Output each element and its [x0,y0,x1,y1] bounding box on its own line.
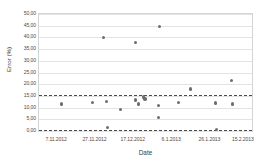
data-point [134,41,137,44]
x-axis-tick-label: 7.11.2012 [45,137,66,142]
gridline [39,61,252,62]
data-point [189,87,192,90]
gridline [39,119,252,120]
y-axis-tick-label: 50,00 [2,11,36,16]
x-axis-tick-label: 15.2.2013 [232,137,254,142]
data-point [105,100,108,103]
data-point [119,108,122,111]
x-axis-tick-label: 26.1.2013 [199,137,221,142]
gridline [39,108,252,109]
y-axis-tick-label: 15,00 [2,92,36,97]
gridline [39,84,252,85]
plot-area [38,13,253,132]
x-axis-title: Date [38,149,253,156]
gridline [39,37,252,38]
data-point [60,102,63,105]
data-point [158,25,161,28]
x-axis-tick-labels: 7.11.201227.11.201217.12.20126.1.201326.… [38,137,253,146]
y-axis-tick-label: 45,00 [2,22,36,27]
data-point [91,101,94,104]
data-point [177,101,180,104]
chart-screenshot: 0,005,0010,0015,0020,0025,0030,0035,0040… [0,0,262,164]
x-axis-tick-label: 27.11.2012 [82,137,106,142]
reference-line [39,130,252,131]
gridline [39,14,252,15]
data-point [106,126,109,129]
y-axis-tick-label: 5,00 [2,116,36,121]
x-axis-tick-label: 6.1.2013 [162,137,181,142]
gridline [39,73,252,74]
y-axis-tick-label: 0,00 [2,128,36,133]
data-point [102,36,105,39]
data-point [137,102,140,105]
gridline [39,49,252,50]
x-axis-tick-label: 17.12.2012 [121,137,146,142]
reference-line [39,95,252,96]
data-point [230,79,233,82]
data-point [134,98,137,101]
gridline [39,26,252,27]
data-point [143,97,146,100]
data-point [231,102,234,105]
data-point [214,101,217,104]
y-axis-tick-label: 10,00 [2,104,36,109]
y-axis-title: Error (%) [5,38,12,82]
